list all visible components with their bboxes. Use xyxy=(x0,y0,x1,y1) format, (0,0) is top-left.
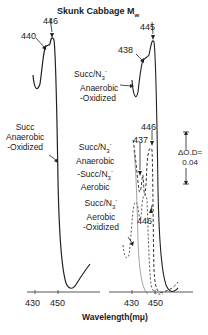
peak-label-438: 438 xyxy=(118,45,133,55)
x-tick-430-right: 430 xyxy=(124,298,139,308)
peak-label-446-aerobic: 446 xyxy=(137,216,152,226)
legend-succn3-difference: Succ/N3- Anaerobic -Succ/N3- Aerobic xyxy=(76,139,114,192)
legend-succ-anaerobic-oxidized: Succ Anaerobic -Oxidized xyxy=(6,122,44,152)
x-tick-430-left: 430 xyxy=(25,298,40,308)
x-axis-label: Wavelength(mμ) xyxy=(82,312,148,322)
peak-label-437: 437 xyxy=(133,135,148,145)
peak-label-440: 440 xyxy=(21,31,36,41)
scale-bar-label: ΔO.D= 0.04 xyxy=(178,148,202,168)
peak-label-445: 445 xyxy=(140,22,155,32)
peak-label-446-left: 446 xyxy=(43,16,58,26)
legend-succn3-anaerobic-oxidized: Succ/N3- Anaerobic -Oxidized xyxy=(74,66,118,103)
peak-label-446-diff: 446 xyxy=(141,122,156,132)
x-tick-450-right: 450 xyxy=(148,298,163,308)
legend-succn3-aerobic-oxidized: Succ/N3- Aerobic -Oxidized xyxy=(83,195,119,232)
x-tick-450-left: 450 xyxy=(50,298,65,308)
